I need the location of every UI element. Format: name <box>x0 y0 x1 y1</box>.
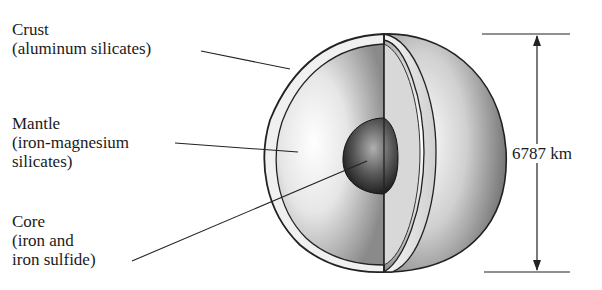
crust-composition: (aluminum silicates) <box>12 39 151 58</box>
core-composition-2: iron sulfide) <box>12 250 96 269</box>
crust-label: Crust (aluminum silicates) <box>12 20 151 58</box>
core-composition-1: (iron and <box>12 231 96 250</box>
mantle-composition-2: silicates) <box>12 152 129 171</box>
mantle-label: Mantle (iron-magnesium silicates) <box>12 114 129 171</box>
arrow-down-icon <box>533 260 541 271</box>
crust-leader <box>201 51 290 69</box>
mantle-name: Mantle <box>12 114 129 133</box>
mantle-composition-1: (iron-magnesium <box>12 133 129 152</box>
diameter-label: 6787 km <box>510 144 574 163</box>
arrow-up-icon <box>533 35 541 46</box>
core-name: Core <box>12 212 96 231</box>
crust-name: Crust <box>12 20 151 39</box>
core-label: Core (iron and iron sulfide) <box>12 212 96 269</box>
